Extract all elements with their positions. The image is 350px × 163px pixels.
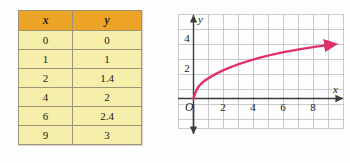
x-tick-label-2: 2 bbox=[220, 101, 226, 113]
column-header-y: y bbox=[73, 11, 142, 31]
column-header-x: x bbox=[19, 11, 73, 31]
cell-x: 4 bbox=[19, 88, 73, 107]
x-tick-label-8: 8 bbox=[310, 101, 316, 113]
cell-y: 2 bbox=[73, 88, 142, 107]
cell-y: 1.4 bbox=[73, 69, 142, 88]
cell-y: 3 bbox=[73, 126, 142, 145]
y-axis-label: y bbox=[197, 13, 203, 25]
cell-x: 1 bbox=[19, 50, 73, 69]
origin-label: O bbox=[185, 101, 194, 113]
graph-svg: y x O 2 4 6 8 2 4 bbox=[178, 8, 350, 158]
x-tick-label-6: 6 bbox=[280, 101, 286, 113]
cell-x: 0 bbox=[19, 31, 73, 50]
table-header-row: x y bbox=[19, 11, 142, 31]
y-tick-label-2: 2 bbox=[184, 62, 190, 74]
table-row: 4 2 bbox=[19, 88, 142, 107]
x-axis-label: x bbox=[332, 83, 338, 95]
cell-y: 0 bbox=[73, 31, 142, 50]
y-tick-label-4: 4 bbox=[184, 32, 190, 44]
x-tick-label-4: 4 bbox=[250, 101, 256, 113]
value-table: x y 0 0 1 1 2 1.4 4 2 6 2.4 bbox=[18, 10, 142, 145]
table-row: 9 3 bbox=[19, 126, 142, 145]
cell-x: 9 bbox=[19, 126, 73, 145]
cell-x: 2 bbox=[19, 69, 73, 88]
table-row: 2 1.4 bbox=[19, 69, 142, 88]
coordinate-graph: y x O 2 4 6 8 2 4 bbox=[178, 8, 350, 158]
table-row: 1 1 bbox=[19, 50, 142, 69]
cell-x: 6 bbox=[19, 107, 73, 126]
grid-lines bbox=[178, 14, 344, 129]
table-row: 6 2.4 bbox=[19, 107, 142, 126]
worked-example-figure: x y 0 0 1 1 2 1.4 4 2 6 2.4 bbox=[0, 0, 350, 163]
table-row: 0 0 bbox=[19, 31, 142, 50]
cell-y: 2.4 bbox=[73, 107, 142, 126]
cell-y: 1 bbox=[73, 50, 142, 69]
